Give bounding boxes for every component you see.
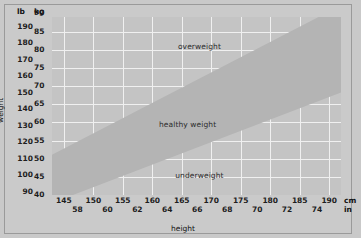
y-tick-kg: 65 <box>34 99 44 108</box>
x-axis-in-unit-label: in <box>344 205 352 214</box>
x-tick-cm: 175 <box>226 196 256 205</box>
y-tick-lb: 110 <box>5 154 33 163</box>
x-tick-cm: 185 <box>285 196 315 205</box>
x-tick-in: 72 <box>272 205 302 214</box>
y-tick-lb: 190 <box>5 22 33 31</box>
y-tick-kg: 40 <box>34 190 44 199</box>
y-tick-lb: 180 <box>5 38 33 47</box>
x-tick-cm: 170 <box>196 196 226 205</box>
x-tick-cm: 190 <box>314 196 344 205</box>
x-tick-cm: 155 <box>108 196 138 205</box>
x-axis-cm-unit-label: cm <box>344 196 356 205</box>
y-tick-kg: 70 <box>34 81 44 90</box>
x-tick-in: 64 <box>152 205 182 214</box>
x-tick-in: 60 <box>92 205 122 214</box>
y-tick-kg: 45 <box>34 172 44 181</box>
x-tick-cm: 180 <box>255 196 285 205</box>
x-tick-in: 70 <box>242 205 272 214</box>
chart-frame: lb kg weight height overweight healthy w… <box>4 4 352 234</box>
band-label-healthy-weight: healthy weight <box>159 120 216 129</box>
y-tick-lb: 160 <box>5 71 33 80</box>
y-tick-kg: 55 <box>34 136 44 145</box>
x-tick-in: 74 <box>302 205 332 214</box>
y-tick-kg: 85 <box>34 27 44 36</box>
band-label-overweight: overweight <box>178 42 221 51</box>
y-tick-lb: 130 <box>5 121 33 130</box>
band-label-underweight: underweight <box>175 171 223 180</box>
x-tick-cm: 160 <box>137 196 167 205</box>
x-tick-in: 58 <box>62 205 92 214</box>
y-tick-kg: 90 <box>34 8 44 17</box>
x-tick-in: 66 <box>182 205 212 214</box>
x-tick-in: 62 <box>122 205 152 214</box>
y-tick-kg: 60 <box>34 117 44 126</box>
y-tick-lb: 140 <box>5 104 33 113</box>
y-tick-lb: 90 <box>5 187 33 196</box>
x-tick-cm: 165 <box>167 196 197 205</box>
x-tick-cm: 150 <box>78 196 108 205</box>
y-axis-lb-unit-header: lb <box>17 7 25 16</box>
y-tick-lb: 120 <box>5 137 33 146</box>
x-axis-title: height <box>5 224 361 233</box>
y-tick-kg: 50 <box>34 154 44 163</box>
y-tick-kg: 80 <box>34 45 44 54</box>
y-tick-lb: 100 <box>5 170 33 179</box>
y-tick-kg: 75 <box>34 63 44 72</box>
y-tick-lb: 150 <box>5 88 33 97</box>
plot-area: overweight healthy weight underweight <box>52 17 341 195</box>
y-tick-lb: 170 <box>5 55 33 64</box>
x-tick-cm: 145 <box>49 196 79 205</box>
x-tick-in: 68 <box>212 205 242 214</box>
